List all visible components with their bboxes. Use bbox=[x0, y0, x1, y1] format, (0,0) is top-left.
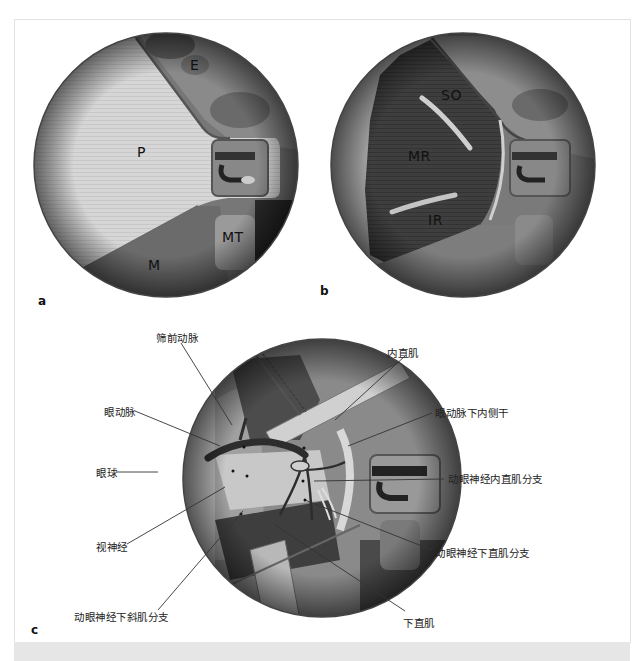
label-superior-oblique-SO: SO bbox=[441, 87, 462, 103]
panel-c-illustration bbox=[180, 339, 470, 630]
panel-letter-a: a bbox=[38, 294, 46, 308]
callout-ophthalmic-artery: 眼动脉 bbox=[104, 404, 136, 419]
callout-optic-nerve: 视神经 bbox=[96, 539, 128, 554]
panel-b-illustration bbox=[330, 30, 610, 310]
callout-oculomotor-inferior-rectus-branch: 动眼神经下直肌分支 bbox=[435, 545, 530, 560]
label-maxillary-M: M bbox=[148, 257, 161, 273]
label-medial-rectus-MR: MR bbox=[408, 148, 431, 164]
label-ethmoid-E: E bbox=[190, 57, 199, 73]
callout-inferior-rectus: 下直肌 bbox=[403, 615, 435, 630]
figure-illustrations bbox=[0, 0, 644, 661]
label-middle-turbinate-MT: MT bbox=[222, 229, 244, 245]
label-inferior-rectus-IR: IR bbox=[428, 212, 443, 228]
callout-eyeball: 眼球 bbox=[96, 465, 117, 480]
callout-medial-rectus: 内直肌 bbox=[387, 345, 419, 360]
panel-letter-c: c bbox=[31, 623, 38, 637]
callout-oculomotor-medial-rectus-branch: 动眼神经内直肌分支 bbox=[448, 471, 543, 486]
callout-anterior-ethmoidal-artery: 筛前动脉 bbox=[156, 330, 198, 345]
callout-oculomotor-inferior-oblique-branch: 动眼神经下斜肌分支 bbox=[74, 609, 169, 624]
callout-ophthalmic-inferomedial-trunk: 眼动脉下内侧干 bbox=[435, 405, 509, 420]
figure-page: a b c E P MT M SO MR IR 筛前动脉 眼动脉 眼球 视神经 … bbox=[0, 0, 644, 661]
label-papyracea-P: P bbox=[137, 144, 146, 160]
panel-letter-b: b bbox=[320, 284, 329, 298]
